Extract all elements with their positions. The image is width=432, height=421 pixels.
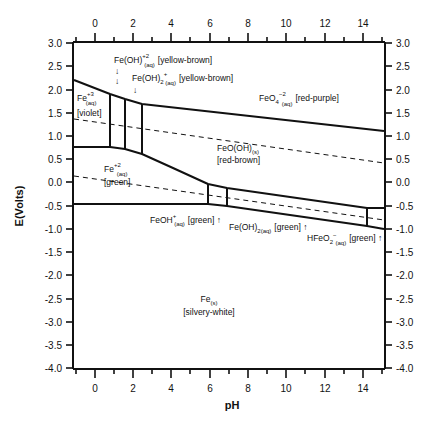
x-tick-labels-top: 0 2 4 6 8 10 12 14 bbox=[92, 18, 369, 29]
svg-text:8: 8 bbox=[245, 18, 251, 29]
svg-text:Fe(OH)2+(aq)[yellow-brown]: Fe(OH)2+(aq)[yellow-brown] bbox=[132, 71, 233, 86]
svg-text:0.5: 0.5 bbox=[396, 154, 410, 165]
svg-text:-3.5: -3.5 bbox=[45, 340, 63, 351]
svg-text:-3.5: -3.5 bbox=[396, 340, 414, 351]
svg-text:-1.0: -1.0 bbox=[45, 224, 63, 235]
svg-text:-1.5: -1.5 bbox=[45, 247, 63, 258]
region-label-feooh: FeO(OH)(s) [red-brown] bbox=[217, 143, 260, 165]
svg-text:2.0: 2.0 bbox=[396, 85, 410, 96]
svg-text:Fe(OH)2(aq)[green] ↑: Fe(OH)2(aq)[green] ↑ bbox=[229, 222, 307, 234]
svg-text:4: 4 bbox=[168, 18, 174, 29]
svg-text:-2.0: -2.0 bbox=[396, 270, 414, 281]
svg-text:-1.0: -1.0 bbox=[396, 224, 414, 235]
svg-text:0.0: 0.0 bbox=[48, 177, 62, 188]
svg-text:-1.5: -1.5 bbox=[396, 247, 414, 258]
down-arrow-icon: ↓ bbox=[115, 76, 119, 86]
y-tick-labels-left: 3.0 2.5 2.0 1.5 1.0 0.5 0.0 -0.5 -1.0 -1… bbox=[45, 38, 63, 374]
svg-text:Fe(s): Fe(s) bbox=[201, 294, 218, 306]
pourbaix-diagram: 0 2 4 6 8 10 12 14 0 2 4 6 8 10 12 14 3.… bbox=[0, 0, 432, 421]
svg-text:-2.5: -2.5 bbox=[396, 294, 414, 305]
region-label-fe3: Fe+3(aq) [violet] bbox=[77, 91, 102, 118]
svg-text:1.5: 1.5 bbox=[396, 108, 410, 119]
svg-text:FeOH+(aq)[green] ↑: FeOH+(aq)[green] ↑ bbox=[150, 213, 221, 227]
region-label-hfeo2: HFeO2−(aq)[green] ↑ bbox=[307, 232, 382, 246]
svg-text:2: 2 bbox=[130, 383, 136, 394]
svg-text:0: 0 bbox=[92, 18, 98, 29]
svg-text:0: 0 bbox=[92, 383, 98, 394]
svg-text:Fe+2(aq): Fe+2(aq) bbox=[104, 162, 127, 177]
svg-text:[violet]: [violet] bbox=[77, 108, 102, 118]
svg-text:8: 8 bbox=[245, 383, 251, 394]
svg-text:2: 2 bbox=[130, 18, 136, 29]
x-tick-labels-bottom: 0 2 4 6 8 10 12 14 bbox=[92, 383, 369, 394]
y-axis-title: E(Volts) bbox=[13, 185, 25, 226]
svg-text:2.0: 2.0 bbox=[48, 85, 62, 96]
upper-oxidation-line bbox=[74, 80, 384, 131]
svg-text:1.5: 1.5 bbox=[48, 108, 62, 119]
svg-text:-2.5: -2.5 bbox=[45, 294, 63, 305]
svg-text:-3.0: -3.0 bbox=[45, 317, 63, 328]
svg-text:1.0: 1.0 bbox=[396, 131, 410, 142]
svg-text:Fe(OH)+2(aq)[yellow-brown]: Fe(OH)+2(aq)[yellow-brown] bbox=[114, 53, 212, 68]
svg-text:3.0: 3.0 bbox=[396, 38, 410, 49]
svg-text:10: 10 bbox=[280, 18, 292, 29]
svg-text:[green]: [green] bbox=[104, 177, 130, 187]
svg-text:3.0: 3.0 bbox=[48, 38, 62, 49]
svg-text:0.5: 0.5 bbox=[48, 154, 62, 165]
svg-text:Fe+3(aq): Fe+3(aq) bbox=[77, 91, 96, 106]
svg-text:1.0: 1.0 bbox=[48, 131, 62, 142]
svg-text:-4.0: -4.0 bbox=[396, 363, 414, 374]
svg-text:6: 6 bbox=[207, 383, 213, 394]
svg-text:2.5: 2.5 bbox=[396, 61, 410, 72]
svg-text:0.0: 0.0 bbox=[396, 177, 410, 188]
x-axis-title: pH bbox=[225, 399, 240, 411]
svg-text:-0.5: -0.5 bbox=[45, 201, 63, 212]
svg-text:HFeO2−(aq)[green] ↑: HFeO2−(aq)[green] ↑ bbox=[307, 232, 382, 246]
svg-text:-3.0: -3.0 bbox=[396, 317, 414, 328]
down-arrow-icon: ↓ bbox=[133, 85, 137, 95]
down-arrow-icon: ↓ bbox=[115, 66, 119, 76]
svg-text:14: 14 bbox=[357, 383, 369, 394]
svg-text:14: 14 bbox=[357, 18, 369, 29]
svg-text:10: 10 bbox=[280, 383, 292, 394]
svg-text:[red-brown]: [red-brown] bbox=[217, 155, 260, 165]
svg-text:-2.0: -2.0 bbox=[45, 270, 63, 281]
region-label-fe-metal: Fe(s) [silvery-white] bbox=[183, 294, 234, 317]
svg-text:6: 6 bbox=[207, 18, 213, 29]
svg-text:2.5: 2.5 bbox=[48, 61, 62, 72]
svg-text:-0.5: -0.5 bbox=[396, 201, 414, 212]
region-label-fe2: Fe+2(aq) [green] bbox=[104, 162, 130, 187]
y-tick-labels-right: 3.0 2.5 2.0 1.5 1.0 0.5 0.0 -0.5 -1.0 -1… bbox=[396, 38, 414, 374]
region-label-feoh2plus: Fe(OH)2+(aq)[yellow-brown] ↓ bbox=[132, 71, 233, 95]
region-label-feoh2aq: Fe(OH)2(aq)[green] ↑ bbox=[229, 222, 307, 234]
region-label-feoh: FeOH+(aq)[green] ↑ bbox=[150, 213, 221, 227]
svg-text:[silvery-white]: [silvery-white] bbox=[183, 307, 234, 317]
svg-text:12: 12 bbox=[319, 18, 331, 29]
svg-text:12: 12 bbox=[319, 383, 331, 394]
svg-text:4: 4 bbox=[168, 383, 174, 394]
svg-text:FeO4−2(aq)[red-purple]: FeO4−2(aq)[red-purple] bbox=[259, 91, 339, 107]
svg-text:-4.0: -4.0 bbox=[45, 363, 63, 374]
region-label-feo4: FeO4−2(aq)[red-purple] bbox=[259, 91, 339, 107]
